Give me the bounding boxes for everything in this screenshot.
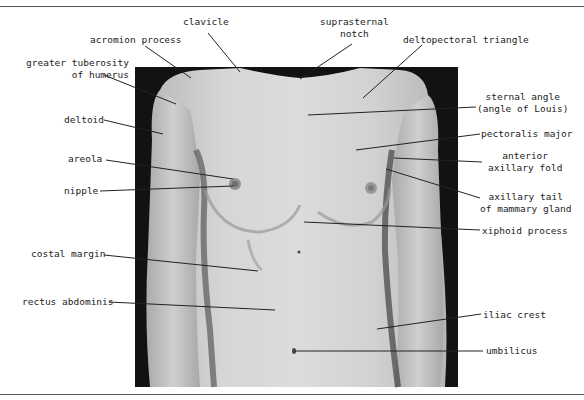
label-xiphoid-process: xiphoid process bbox=[482, 225, 568, 237]
label-pectoralis-major: pectoralis major bbox=[481, 128, 573, 140]
leader-rectus-abdominis bbox=[109, 302, 275, 310]
label-iliac-crest: iliac crest bbox=[483, 309, 546, 321]
label-greater-tuberosity: greater tuberosity of humerus bbox=[26, 57, 129, 81]
label-clavicle: clavicle bbox=[183, 16, 229, 28]
label-costal-margin: costal margin bbox=[31, 248, 105, 260]
leader-costal-margin bbox=[104, 255, 258, 271]
leader-sternal-angle bbox=[308, 107, 476, 115]
leader-axillary-tail bbox=[386, 169, 480, 198]
label-umbilicus: umbilicus bbox=[486, 345, 537, 357]
label-areola: areola bbox=[68, 153, 102, 165]
label-nipple: nipple bbox=[64, 185, 98, 197]
leader-clavicle bbox=[208, 33, 240, 72]
label-acromion-process: acromion process bbox=[90, 34, 182, 46]
leader-xiphoid-process bbox=[304, 222, 480, 230]
label-deltoid: deltoid bbox=[64, 114, 104, 126]
label-sternal-angle: sternal angle (angle of Louis) bbox=[477, 91, 569, 115]
leader-deltopectoral-triangle bbox=[363, 45, 422, 98]
leader-areola bbox=[106, 160, 233, 179]
label-suprasternal-notch: suprasternal notch bbox=[320, 16, 389, 40]
leader-iliac-crest bbox=[377, 314, 481, 329]
label-axillary-tail: axillary tail of mammary gland bbox=[480, 191, 572, 215]
leader-deltoid bbox=[104, 120, 163, 134]
leader-pectoralis-major bbox=[356, 134, 480, 150]
label-deltopectoral-triangle: deltopectoral triangle bbox=[403, 34, 529, 46]
leader-anterior-axillary-fold bbox=[394, 158, 482, 162]
leader-nipple bbox=[100, 186, 233, 191]
leader-suprasternal-notch bbox=[300, 44, 352, 79]
label-anterior-axillary-fold: anterior axillary fold bbox=[488, 150, 562, 174]
leader-acromion-process bbox=[145, 46, 191, 78]
label-rectus-abdominis: rectus abdominis bbox=[22, 296, 114, 308]
